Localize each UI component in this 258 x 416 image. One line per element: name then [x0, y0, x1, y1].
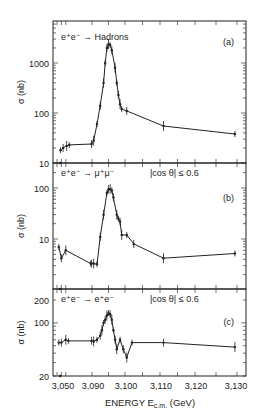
data-point — [101, 329, 103, 331]
data-point — [119, 103, 121, 105]
data-point — [126, 356, 128, 358]
y-tick-label: 10 — [39, 235, 49, 245]
x-axis-tick-labels: 3,0503,0903,1003,1103,1203,130 — [52, 381, 248, 391]
data-point — [116, 82, 118, 84]
data-point — [109, 313, 111, 315]
panel-frame — [53, 21, 246, 163]
x-tick-label: 3,120 — [185, 381, 208, 391]
data-point — [119, 220, 121, 222]
data-point — [116, 348, 118, 350]
y-tick-label: 100 — [34, 184, 49, 194]
data-point — [104, 62, 106, 64]
data-point — [112, 329, 114, 331]
y-axis-title: σ (nb) — [16, 214, 26, 238]
panel-label: (a) — [223, 37, 234, 47]
y-tick-label: 100 — [34, 318, 49, 328]
y-axis-title: σ (nb) — [16, 80, 26, 104]
data-point — [99, 104, 101, 106]
data-point — [68, 144, 70, 146]
data-point — [96, 263, 98, 265]
data-point — [92, 139, 94, 141]
panel-frame — [53, 163, 246, 289]
y-tick-label: 200 — [34, 296, 49, 306]
x-tick-label: 3,130 — [225, 381, 248, 391]
data-point — [121, 108, 123, 110]
data-point — [99, 334, 101, 336]
plot-panels: 101001000σ (nb)e⁺e⁻ → Hadrons(a)10100σ (… — [16, 21, 246, 382]
data-point — [126, 234, 128, 236]
data-point — [58, 246, 60, 248]
figure: 101001000σ (nb)e⁺e⁻ → Hadrons(a)10100σ (… — [0, 0, 258, 416]
data-point — [65, 339, 67, 341]
data-point — [131, 341, 133, 343]
data-point — [162, 341, 164, 343]
data-point — [104, 319, 106, 321]
data-point — [234, 133, 236, 135]
data-point — [92, 262, 94, 264]
y-tick-label: 20 — [39, 372, 49, 382]
reaction-label: e⁺e⁻ → e⁺e⁻ — [61, 294, 114, 304]
data-point — [58, 341, 60, 343]
data-point — [119, 339, 121, 341]
data-point — [117, 218, 119, 220]
data-point — [65, 145, 67, 147]
data-point — [90, 143, 92, 145]
data-point — [92, 340, 94, 342]
data-point — [162, 257, 164, 259]
panel-label: (c) — [224, 317, 235, 327]
data-point — [234, 252, 236, 254]
data-point — [59, 149, 61, 151]
y-tick-label: 1000 — [29, 59, 49, 69]
data-point — [133, 243, 135, 245]
y-axis-title: σ (nb) — [16, 320, 26, 344]
angular-cut-label: |cos θ| ≤ 0.6 — [150, 294, 199, 304]
data-point — [106, 47, 108, 49]
data-point — [102, 82, 104, 84]
panel-label: (b) — [223, 193, 234, 203]
x-axis-title: ENERGY Ec.m. (GeV) — [105, 397, 195, 409]
data-point — [114, 67, 116, 69]
data-point — [60, 341, 62, 343]
data-point — [90, 262, 92, 264]
x-tick-label: 3,100 — [115, 381, 138, 391]
y-tick-label: 100 — [34, 109, 49, 119]
data-point — [111, 189, 113, 191]
panel-c: 20100200σ (nb)e⁺e⁻ → e⁺e⁻|cos θ| ≤ 0.6(c… — [16, 289, 246, 382]
data-point — [111, 319, 113, 321]
data-point — [162, 125, 164, 127]
data-point — [112, 196, 114, 198]
axis-break-mark — [59, 375, 62, 378]
data-point — [99, 236, 101, 238]
x-tick-label: 3,090 — [82, 381, 105, 391]
data-point — [90, 340, 92, 342]
data-point — [106, 192, 108, 194]
panel-b: 10100σ (nb)e⁺e⁻ → μ⁺μ⁻|cos θ| ≤ 0.6(b) — [16, 163, 246, 290]
data-point — [122, 348, 124, 350]
x-tick-label: 3,110 — [150, 381, 172, 391]
x-tick-label: 3,050 — [52, 381, 75, 391]
data-point — [102, 213, 104, 215]
angular-cut-label: |cos θ| ≤ 0.6 — [150, 168, 199, 178]
data-point — [62, 147, 64, 149]
data-point — [67, 340, 69, 342]
data-point — [106, 314, 108, 316]
data-point — [121, 234, 123, 236]
fit-curve — [59, 313, 235, 358]
reaction-label: e⁺e⁻ → Hadrons — [61, 32, 129, 42]
reaction-label: e⁺e⁻ → μ⁺μ⁻ — [61, 168, 115, 178]
data-point — [96, 339, 98, 341]
data-point — [96, 123, 98, 125]
data-point — [65, 249, 67, 251]
data-point — [116, 213, 118, 215]
data-point — [114, 339, 116, 341]
data-point — [126, 110, 128, 112]
data-point — [60, 257, 62, 259]
data-point — [111, 49, 113, 51]
data-point — [102, 322, 104, 324]
panel-a: 101001000σ (nb)e⁺e⁻ → Hadrons(a) — [16, 21, 246, 169]
y-tick-label: 10 — [39, 159, 49, 169]
data-point — [109, 44, 111, 46]
data-point — [234, 346, 236, 348]
data-point — [117, 94, 119, 96]
fit-curve — [59, 189, 235, 264]
